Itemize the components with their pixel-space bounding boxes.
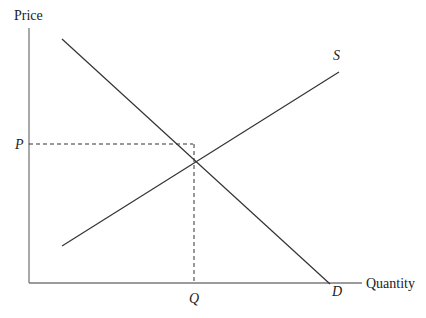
supply-label: S xyxy=(333,48,340,63)
supply-demand-diagram: Price Quantity S D P Q xyxy=(0,0,426,318)
quantity-label: Q xyxy=(189,291,199,306)
y-axis-label: Price xyxy=(14,8,43,23)
supply-curve xyxy=(62,72,339,246)
price-label: P xyxy=(14,137,24,152)
x-axis-label: Quantity xyxy=(366,276,415,291)
demand-label: D xyxy=(331,284,342,299)
